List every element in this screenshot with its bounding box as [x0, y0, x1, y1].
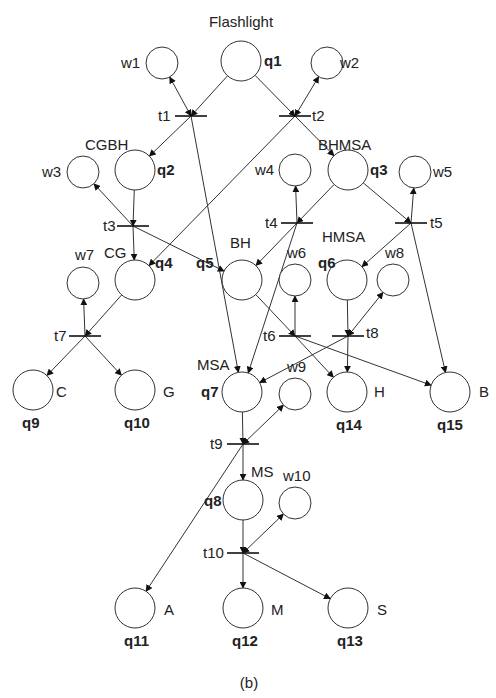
- figure-title: Flashlight: [209, 13, 274, 30]
- place-q13: [328, 588, 368, 628]
- t6-label: t6: [263, 327, 276, 344]
- t9-label: t9: [210, 435, 223, 452]
- place-w9: [279, 378, 311, 410]
- w1-label: w1: [120, 54, 140, 71]
- figure-caption: (b): [240, 674, 258, 691]
- w3-label: w3: [41, 163, 61, 180]
- place-q1: [221, 41, 261, 81]
- q5-tag: q5: [196, 254, 214, 271]
- arc-t7-q10: [85, 336, 121, 375]
- arc-q6-t8: [347, 300, 348, 336]
- arc-q1-t2: [255, 75, 295, 116]
- w9-label: w9: [286, 358, 306, 375]
- q11-tag: q11: [124, 632, 149, 649]
- place-q2: [115, 150, 155, 190]
- place-w4: [279, 154, 311, 186]
- t4-label: t4: [265, 214, 278, 231]
- place-q4: [115, 260, 155, 300]
- arc-q3-t4: [297, 184, 334, 223]
- q7-state: MSA: [197, 356, 230, 373]
- place-q9: [13, 370, 53, 410]
- places: [13, 41, 470, 628]
- q8-tag: q8: [204, 492, 222, 509]
- t8-label: t8: [366, 324, 379, 341]
- place-q11: [115, 588, 155, 628]
- arc-t4-w4: [296, 186, 297, 223]
- q1-tag: q1: [264, 52, 282, 69]
- w5-label: w5: [432, 163, 452, 180]
- place-q8: [223, 480, 263, 520]
- arc-q3-t5: [363, 183, 411, 223]
- t1-label: t1: [158, 107, 171, 124]
- q6-tag: q6: [318, 254, 336, 271]
- place-w6: [279, 264, 311, 296]
- w4-label: w4: [254, 161, 274, 178]
- q14-state: H: [374, 383, 385, 400]
- arc-q7-t9: [242, 412, 243, 444]
- place-w1: [146, 47, 178, 79]
- t7-label: t7: [54, 327, 67, 344]
- q3-tag: q3: [370, 161, 388, 178]
- q9-tag: q9: [22, 414, 40, 431]
- place-w2: [311, 47, 343, 79]
- q12-state: M: [271, 601, 284, 618]
- place-w7: [67, 267, 99, 299]
- place-q12: [223, 588, 263, 628]
- place-q14: [327, 372, 367, 412]
- q5-state: BH: [230, 234, 251, 251]
- arc-t2-q4: [149, 116, 295, 266]
- place-q10: [115, 370, 155, 410]
- arc-t6-q15: [295, 336, 431, 385]
- arc-q2-t3: [133, 190, 134, 226]
- q12-tag: q12: [232, 632, 258, 649]
- place-q5: [222, 260, 262, 300]
- q7-tag: q7: [201, 383, 219, 400]
- t2-label: t2: [312, 107, 325, 124]
- q15-tag: q15: [437, 416, 463, 433]
- w7-label: w7: [74, 246, 94, 263]
- arc-t3-q4: [133, 226, 134, 260]
- q4-state: CG: [104, 244, 127, 261]
- t10-label: t10: [203, 544, 224, 561]
- q2-state: CGBH: [85, 136, 128, 153]
- t3-label: t3: [103, 217, 116, 234]
- q9-state: C: [56, 383, 67, 400]
- arc-t9-q11: [146, 444, 243, 591]
- arc-t7-w7: [84, 299, 85, 336]
- q8-state: MS: [251, 463, 274, 480]
- q13-state: S: [377, 601, 387, 618]
- place-w3: [67, 156, 99, 188]
- q3-state: BHMSA: [318, 136, 371, 153]
- arc-t8-q14: [347, 336, 348, 372]
- q4-tag: q4: [155, 254, 173, 271]
- q15-state: B: [479, 383, 489, 400]
- place-q7: [222, 372, 262, 412]
- t5-label: t5: [430, 214, 443, 231]
- q10-state: G: [163, 383, 175, 400]
- place-w8: [377, 264, 409, 296]
- arc-q4-t7: [85, 295, 122, 336]
- w10-label: w10: [282, 467, 311, 484]
- arc-t1-w1: [170, 77, 191, 116]
- q11-state: A: [164, 601, 174, 618]
- place-q3: [328, 150, 368, 190]
- arc-q1-t1: [191, 76, 228, 116]
- q13-tag: q13: [337, 632, 363, 649]
- place-q15: [430, 372, 470, 412]
- place-w10: [279, 487, 311, 519]
- petri-net-diagram: Flashlight (b) q1 q2 q3 q4 q5 q6 q7 q8 q…: [0, 0, 496, 698]
- w6-label: w6: [286, 244, 306, 261]
- arc-t5-w5: [411, 188, 414, 223]
- w2-label: w2: [339, 54, 359, 71]
- arc-t10-q13: [243, 553, 330, 599]
- q10-tag: q10: [124, 414, 150, 431]
- q6-state: HMSA: [322, 228, 365, 245]
- place-w5: [399, 156, 431, 188]
- arc-t5-q15: [411, 223, 446, 373]
- w8-label: w8: [384, 244, 404, 261]
- q14-tag: q14: [336, 416, 363, 433]
- arc-t10-w10: [243, 514, 283, 553]
- q2-tag: q2: [157, 161, 175, 178]
